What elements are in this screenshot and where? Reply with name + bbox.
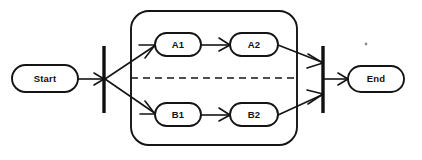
- arrowhead-open: [307, 54, 323, 68]
- node-b2[interactable]: B2: [230, 103, 278, 126]
- node-a2[interactable]: A2: [230, 33, 278, 56]
- node-a1[interactable]: A1: [155, 33, 201, 56]
- node-b1[interactable]: B1: [155, 103, 201, 126]
- node-a1-label: A1: [172, 39, 185, 50]
- activity-diagram-canvas: Start A1 A2 B1 B2 End: [0, 0, 422, 160]
- edge-join-to-end: [323, 73, 349, 85]
- edge-b1-to-b2: [201, 108, 231, 121]
- scan-speck-artifact: [365, 43, 368, 46]
- node-b2-label: B2: [248, 109, 261, 120]
- node-a2-label: A2: [248, 39, 261, 50]
- activity-diagram: Start A1 A2 B1 B2 End: [0, 0, 422, 160]
- arrowhead-open: [307, 90, 323, 104]
- node-end-label: End: [367, 73, 386, 84]
- node-b1-label: B1: [172, 109, 185, 120]
- node-start[interactable]: Start: [12, 65, 78, 92]
- edge-b2-to-join: [278, 90, 324, 115]
- node-start-label: Start: [34, 73, 57, 84]
- node-end[interactable]: End: [348, 66, 404, 92]
- edge-a1-to-a2: [201, 38, 231, 51]
- edge-a2-to-join: [278, 45, 324, 68]
- edge-start-to-fork: [78, 73, 105, 85]
